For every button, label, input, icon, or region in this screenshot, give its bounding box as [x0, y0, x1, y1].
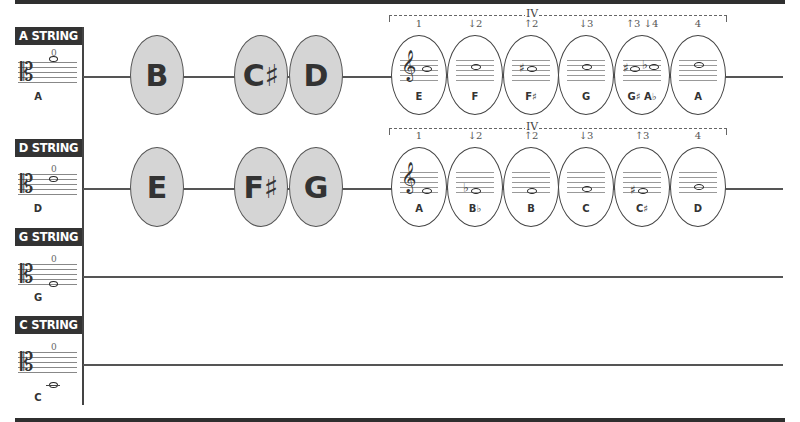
string-label-c: C STRING: [15, 316, 82, 334]
whole-note-icon: [582, 186, 592, 192]
top-rule: [15, 0, 785, 4]
fingered-note-oval: 𝄞A: [391, 147, 447, 227]
whole-note-icon: [49, 56, 58, 62]
note-name: C: [559, 203, 613, 214]
flat-icon: ♭: [463, 181, 469, 195]
note-name: G: [559, 91, 613, 102]
whole-note-icon: [49, 176, 58, 182]
finger-label: ↑3: [614, 130, 670, 141]
whole-note-icon: [582, 64, 592, 70]
fingered-note-oval: ♭B♭: [447, 147, 503, 227]
finger-label: ↓3: [558, 130, 614, 141]
treble-clef-icon: 𝄞: [401, 162, 416, 193]
note-oval-d: D: [289, 35, 343, 115]
note-name: E: [392, 91, 446, 102]
string-label-d: D STRING: [15, 139, 82, 157]
whole-note-icon: [630, 66, 640, 72]
fingered-note-oval: G: [558, 35, 614, 115]
note-name: F: [448, 91, 502, 102]
whole-note-icon: [422, 66, 432, 72]
finger-label: 4: [670, 130, 726, 141]
bottom-rule: [15, 418, 785, 422]
note-oval-f-sharp: F♯: [234, 147, 288, 227]
whole-note-icon: [422, 188, 432, 194]
whole-note-icon: [694, 184, 704, 190]
treble-clef-icon: 𝄞: [401, 50, 416, 81]
whole-note-icon: [527, 188, 537, 194]
alto-clef-icon: 𝄡: [20, 350, 33, 374]
finger-label: ↑3 ↓4: [614, 18, 670, 29]
finger-label: ↑2: [503, 130, 559, 141]
fingered-note-oval: B: [503, 147, 559, 227]
string-label-g: G STRING: [15, 228, 82, 246]
finger-label: ↑2: [503, 18, 559, 29]
note-oval-c-sharp: C♯: [234, 35, 288, 115]
note-name: F♯: [504, 91, 558, 102]
flat-icon: ♭: [642, 58, 648, 72]
note-name: G♯ A♭: [615, 91, 669, 102]
alto-clef-icon: 𝄡: [20, 60, 33, 84]
whole-note-icon: [638, 188, 648, 194]
finger-label: ↓2: [447, 130, 503, 141]
open-note-a: A: [28, 91, 48, 102]
finger-label: 1: [391, 18, 447, 29]
fingered-note-oval: ♯F♯: [503, 35, 559, 115]
open-note-c: C: [28, 392, 48, 403]
sharp-icon: ♯: [519, 61, 525, 75]
fingered-note-oval: A: [670, 35, 726, 115]
sharp-icon: ♯: [623, 61, 629, 75]
finger-label: ↓2: [447, 18, 503, 29]
note-name: C♯: [615, 203, 669, 214]
c-string-line: [83, 364, 783, 366]
note-name: A: [671, 91, 725, 102]
g-string-line: [83, 276, 783, 278]
note-oval-e: E: [130, 147, 184, 227]
fingered-note-oval: ♯♭G♯ A♭: [614, 35, 670, 115]
finger-label: 4: [670, 18, 726, 29]
fingered-note-oval: D: [670, 147, 726, 227]
note-oval-b: B: [130, 35, 184, 115]
alto-clef-icon: 𝄡: [20, 172, 33, 196]
open-note-d: D: [28, 203, 48, 214]
note-name: B: [504, 203, 558, 214]
fingered-note-oval: C: [558, 147, 614, 227]
whole-note-icon: [471, 188, 481, 194]
whole-note-icon: [471, 64, 481, 70]
finger-label: ↓3: [558, 18, 614, 29]
whole-note-icon: [49, 281, 58, 287]
string-label-a: A STRING: [15, 27, 82, 45]
whole-note-icon: [527, 66, 537, 72]
note-name: B♭: [448, 203, 502, 214]
string-divider: [82, 27, 84, 405]
note-oval-g: G: [289, 147, 343, 227]
fingered-note-oval: F: [447, 35, 503, 115]
open-note-g: G: [28, 292, 48, 303]
sharp-icon: ♯: [630, 183, 636, 197]
alto-clef-icon: 𝄡: [20, 262, 33, 286]
whole-note-icon: [649, 64, 659, 70]
note-name: A: [392, 203, 446, 214]
fingered-note-oval: ♯C♯: [614, 147, 670, 227]
fingered-note-oval: 𝄞E: [391, 35, 447, 115]
whole-note-icon: [694, 62, 704, 68]
note-name: D: [671, 203, 725, 214]
finger-label: 1: [391, 130, 447, 141]
